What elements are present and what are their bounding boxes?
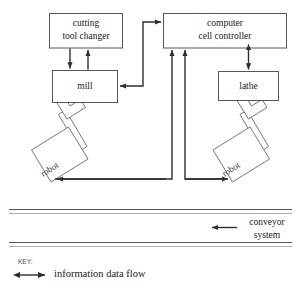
conveyor-label-line1: conveyor bbox=[249, 217, 285, 227]
cutting-tool-changer-label-line1: cutting bbox=[73, 18, 100, 28]
box-cutting-tool-changer: cutting tool changer bbox=[50, 14, 123, 49]
key-legend: KEY: information data flow bbox=[18, 258, 146, 280]
diagram-canvas: robot robot cutting tool changer compute… bbox=[0, 0, 301, 293]
cutting-tool-changer-label-line2: tool changer bbox=[62, 31, 110, 41]
robot-left: robot bbox=[32, 96, 89, 183]
key-legend-label: information data flow bbox=[54, 268, 146, 279]
conveyor-label-line2: system bbox=[254, 230, 281, 240]
conveyor-system: conveyor system bbox=[9, 210, 292, 247]
computer-cell-controller-label-line2: cell controller bbox=[198, 31, 252, 41]
robot-right: robot bbox=[213, 96, 270, 183]
computer-cell-controller-label-line1: computer bbox=[207, 18, 244, 28]
arrow-mill-to-controller bbox=[143, 22, 161, 40]
arrow-controller-to-mill bbox=[120, 40, 143, 86]
manufacturing-cell-diagram: robot robot cutting tool changer compute… bbox=[0, 0, 301, 293]
mill-label: mill bbox=[77, 81, 93, 91]
box-lathe: lathe bbox=[219, 72, 279, 101]
box-mill: mill bbox=[53, 71, 118, 103]
key-heading: KEY: bbox=[18, 258, 33, 265]
lathe-label: lathe bbox=[239, 81, 257, 91]
box-computer-cell-controller: computer cell controller bbox=[164, 14, 287, 49]
